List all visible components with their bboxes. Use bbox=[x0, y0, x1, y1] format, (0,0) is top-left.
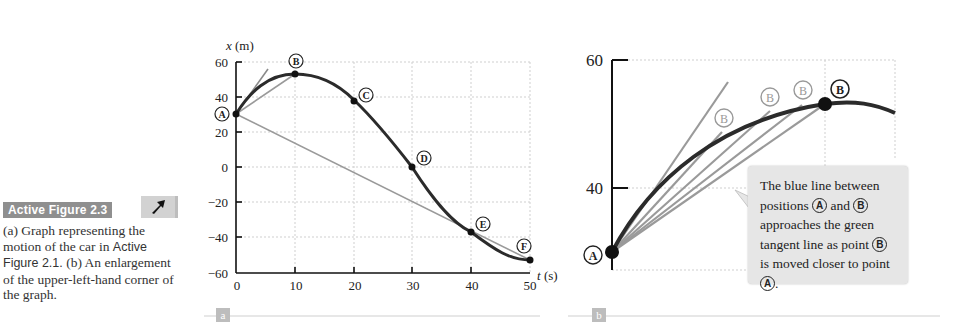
svg-text:0: 0 bbox=[222, 160, 229, 175]
svg-text:C: C bbox=[362, 90, 369, 101]
svg-text:60: 60 bbox=[586, 51, 603, 70]
svg-text:−60: −60 bbox=[208, 266, 228, 281]
svg-text:40: 40 bbox=[466, 278, 479, 293]
point-b-b bbox=[818, 97, 832, 111]
svg-text:A: A bbox=[589, 249, 598, 263]
svg-text:0: 0 bbox=[234, 278, 241, 293]
callout-box: The blue line between positions A and B … bbox=[748, 166, 908, 284]
svg-text:B: B bbox=[766, 91, 774, 105]
svg-text:B: B bbox=[293, 56, 300, 67]
svg-text:B: B bbox=[720, 112, 728, 126]
y-axis-label-a: x (m) bbox=[225, 38, 254, 53]
svg-text:A: A bbox=[218, 109, 226, 120]
point-b-marker: B bbox=[853, 198, 868, 213]
svg-text:50: 50 bbox=[524, 278, 537, 293]
svg-text:E: E bbox=[480, 219, 487, 230]
panel-label-a: a bbox=[221, 309, 226, 321]
svg-text:60: 60 bbox=[215, 55, 228, 70]
svg-text:B: B bbox=[799, 84, 807, 98]
secant-a-b bbox=[236, 74, 295, 114]
point-a-marker: A bbox=[812, 198, 827, 213]
point-a-b bbox=[605, 245, 619, 259]
svg-text:40: 40 bbox=[215, 90, 228, 105]
svg-text:10: 10 bbox=[290, 278, 303, 293]
svg-text:40: 40 bbox=[586, 179, 603, 198]
svg-text:−40: −40 bbox=[208, 230, 228, 245]
svg-text:20: 20 bbox=[349, 278, 362, 293]
secant-a-f bbox=[236, 114, 530, 260]
point-b-marker: B bbox=[872, 237, 887, 252]
point-a-marker: A bbox=[760, 276, 775, 291]
svg-text:30: 30 bbox=[407, 278, 420, 293]
svg-text:B: B bbox=[836, 83, 844, 97]
panel-label-b: b bbox=[596, 309, 602, 321]
svg-text:D: D bbox=[420, 153, 427, 164]
svg-text:−20: −20 bbox=[208, 195, 228, 210]
svg-text:20: 20 bbox=[215, 125, 228, 140]
y-tick-labels-a: 60 40 20 0 −20 −40 −60 bbox=[208, 55, 228, 281]
x-axis-label-a: t (s) bbox=[537, 268, 558, 283]
x-tick-labels-a: 0 10 20 30 40 50 bbox=[234, 278, 537, 293]
svg-text:F: F bbox=[521, 241, 527, 252]
y-tick-labels-b: 60 40 bbox=[586, 51, 603, 198]
